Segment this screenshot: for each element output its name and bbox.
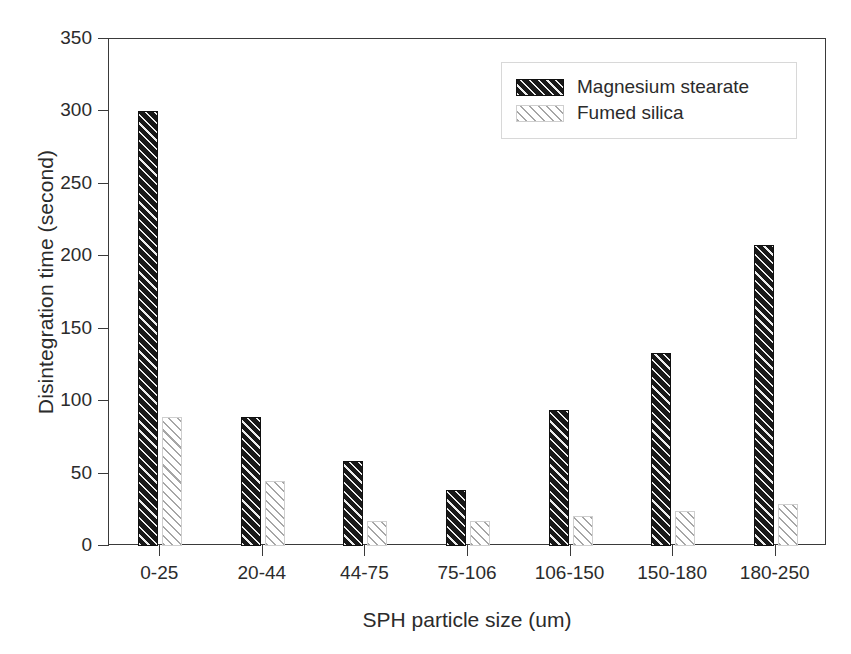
chart-legend: Magnesium stearate Fumed silica [501, 62, 797, 139]
bar [138, 111, 158, 546]
x-axis-tick [262, 545, 263, 556]
y-axis-tick-label: 100 [8, 389, 92, 411]
bar [446, 490, 466, 546]
bar [573, 516, 593, 546]
bar [343, 461, 363, 546]
bar [754, 245, 774, 546]
y-axis-title: Disintegration time (second) [34, 72, 58, 492]
x-axis-title: SPH particle size (um) [108, 608, 826, 632]
legend-item-fumed-silica: Fumed silica [516, 100, 782, 126]
x-axis-tick [159, 545, 160, 556]
legend-label: Fumed silica [577, 102, 684, 124]
y-axis-tick-label: 200 [8, 244, 92, 266]
bar [265, 481, 285, 546]
y-axis-tick-label: 300 [8, 99, 92, 121]
legend-item-magnesium-stearate: Magnesium stearate [516, 74, 782, 100]
bar [367, 521, 387, 546]
bar [470, 521, 490, 546]
bar [651, 353, 671, 546]
x-axis-tick [364, 545, 365, 556]
y-axis-tick-label: 350 [8, 27, 92, 49]
y-axis-tick-label: 0 [8, 534, 92, 556]
x-axis-tick-label: 180-250 [715, 562, 835, 584]
x-axis-tick [467, 545, 468, 556]
bar [241, 417, 261, 546]
legend-swatch-dark-hatch-icon [516, 79, 564, 96]
bar [675, 511, 695, 546]
x-axis-tick [570, 545, 571, 556]
bar [778, 504, 798, 546]
x-axis-tick [672, 545, 673, 556]
bar [549, 410, 569, 546]
legend-label: Magnesium stearate [577, 76, 749, 98]
y-axis-tick-label: 250 [8, 172, 92, 194]
x-axis-tick [775, 545, 776, 556]
y-axis-tick [98, 545, 109, 546]
y-axis-tick-label: 50 [8, 462, 92, 484]
y-axis-tick-label: 150 [8, 317, 92, 339]
legend-swatch-light-hatch-icon [516, 105, 564, 122]
bar-chart-figure: Disintegration time (second) SPH particl… [0, 0, 851, 654]
bar [162, 417, 182, 546]
